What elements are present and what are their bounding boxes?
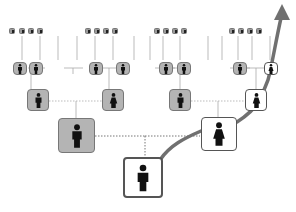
ancestor-icon — [238, 28, 244, 34]
ancestor-node — [29, 62, 43, 75]
grandfather-paternal-node — [27, 89, 49, 111]
female-person-icon — [109, 93, 118, 108]
ancestor-node — [233, 62, 247, 75]
person-icon — [181, 64, 187, 74]
person-icon — [17, 64, 23, 74]
grandmother-maternal-node — [245, 89, 267, 111]
ancestor-icon — [103, 28, 109, 34]
male-person-icon — [135, 164, 151, 192]
male-person-icon — [34, 93, 43, 108]
grandfather-maternal-node — [169, 89, 191, 111]
ancestor-icon — [94, 28, 100, 34]
ancestor-icon — [28, 28, 34, 34]
female-person-icon — [212, 122, 226, 146]
ancestor-node — [89, 62, 103, 75]
ancestor-icon — [154, 28, 160, 34]
ancestor-node — [159, 62, 173, 75]
female-person-icon — [252, 93, 261, 108]
ancestor-icon — [19, 28, 25, 34]
male-person-icon — [176, 93, 185, 108]
ancestor-icon — [172, 28, 178, 34]
ancestor-icon — [256, 28, 262, 34]
person-icon — [93, 64, 99, 74]
person-icon — [163, 64, 169, 74]
self-node — [123, 157, 163, 198]
father-node — [58, 118, 95, 153]
highlighted-ancestor-node — [264, 62, 278, 75]
ancestor-icon — [247, 28, 253, 34]
family-tree-diagram — [0, 0, 296, 212]
ancestor-icon — [112, 28, 118, 34]
ancestor-icon — [85, 28, 91, 34]
ancestor-icon — [9, 28, 15, 34]
grandmother-paternal-node — [102, 89, 124, 111]
ancestor-node — [177, 62, 191, 75]
person-icon — [237, 64, 243, 74]
ancestor-icon — [181, 28, 187, 34]
mother-node — [201, 117, 237, 151]
male-person-icon — [70, 124, 84, 148]
person-icon — [33, 64, 39, 74]
female-person-icon — [268, 64, 274, 74]
ancestor-icon — [163, 28, 169, 34]
person-icon — [120, 64, 126, 74]
ancestor-icon — [37, 28, 43, 34]
ancestor-icon — [229, 28, 235, 34]
ancestor-node — [13, 62, 27, 75]
ancestor-node — [116, 62, 130, 75]
